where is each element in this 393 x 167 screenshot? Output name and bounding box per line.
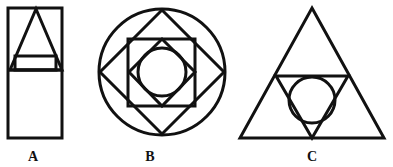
figure-c-inverted-triangle [276, 76, 348, 138]
geometric-figures-canvas [0, 0, 393, 167]
figure-c-group [240, 8, 384, 138]
figure-c-inscribed-circle [289, 77, 335, 123]
figure-b-inner-circle [138, 48, 186, 96]
figure-board: A B C [0, 0, 393, 167]
figure-a-group [8, 8, 62, 138]
figure-a-inner-rectangle [15, 56, 56, 70]
figure-label-c: C [292, 150, 332, 164]
figure-b-outer-circle [99, 9, 225, 135]
figure-c-outer-triangle [240, 8, 384, 138]
figure-a-triangle [10, 9, 62, 70]
figure-label-a: A [13, 150, 53, 164]
figure-a-outer-rectangle [8, 8, 62, 138]
figure-label-b: B [130, 150, 170, 164]
figure-b-group [99, 9, 225, 135]
figure-b-outer-diamond [100, 10, 224, 134]
